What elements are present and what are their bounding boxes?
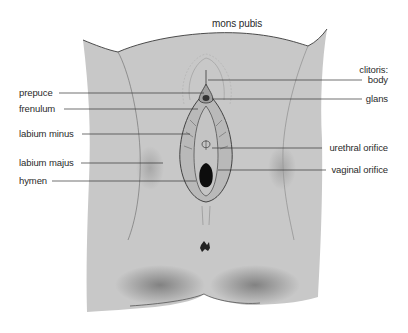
anatomy-diagram: mons pubis prepuce frenulum labium minus… [0,0,408,333]
label-mons-pubis: mons pubis [212,18,262,29]
label-labium-minus: labium minus [19,128,74,139]
label-body: body [368,74,388,85]
label-hymen: hymen [19,175,47,186]
label-frenulum: frenulum [19,103,55,114]
label-glans: glans [366,93,388,104]
label-urethral-orifice: urethral orifice [329,142,388,153]
label-prepuce: prepuce [19,87,53,98]
label-vaginal-orifice: vaginal orifice [331,164,388,175]
label-labium-majus: labium majus [19,157,74,168]
